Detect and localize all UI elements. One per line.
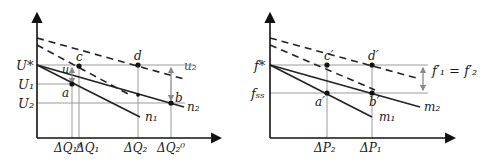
- label-u-star: U*: [16, 58, 34, 73]
- label-point-a: a: [62, 86, 69, 100]
- label-dq2-0: ΔQ₂⁰: [156, 141, 185, 155]
- label-point-d-prime: d′: [368, 49, 379, 63]
- label-f-star: f*: [253, 58, 266, 73]
- label-dp2: ΔP₂: [313, 141, 336, 155]
- label-u1: U₁: [18, 77, 34, 92]
- label-dq2: ΔQ₂: [123, 141, 148, 155]
- m1-line: [270, 65, 372, 117]
- label-point-b-prime: b′: [369, 95, 380, 109]
- label-m2: m₂: [424, 100, 440, 114]
- label-point-d: d: [134, 49, 142, 63]
- intersection-dq2-n2: [136, 93, 140, 97]
- upper-dashed-line: [37, 38, 184, 79]
- point-c: [76, 63, 81, 68]
- label-dp1: ΔP₁: [359, 141, 382, 155]
- label-point-a-prime: a′: [315, 95, 325, 109]
- label-f-ss: fₛₛ: [250, 86, 265, 101]
- point-b: [168, 100, 173, 105]
- label-u2-line: u₂: [184, 59, 197, 73]
- label-n1: n₁: [145, 110, 158, 124]
- label-u2: U₂: [18, 96, 34, 111]
- m2-line: [270, 65, 420, 107]
- point-a: [69, 81, 74, 86]
- n2-line: [37, 65, 184, 107]
- label-dq1: ΔQ₁: [75, 141, 99, 155]
- label-u: u: [62, 63, 69, 76]
- label-f-equality: f′₁ = f′₂: [431, 63, 477, 78]
- diagram-canvas: U* U₁ U₂ ΔQ₁⁰ ΔQ₁ ΔQ₂ ΔQ₂⁰ n₁ n₂ u₂ u a …: [0, 0, 493, 164]
- label-point-c-prime: c′: [324, 49, 334, 63]
- point-c-prime: [324, 62, 329, 67]
- n1-line: [37, 65, 140, 117]
- label-point-c: c: [76, 50, 83, 64]
- label-m1: m₁: [379, 110, 395, 124]
- point-a-prime: [324, 90, 329, 95]
- label-n2: n₂: [187, 100, 200, 114]
- point-d-prime: [369, 62, 374, 67]
- point-d: [135, 62, 140, 67]
- upper-dashed-line-right: [270, 38, 420, 79]
- left-chart: U* U₁ U₂ ΔQ₁⁰ ΔQ₁ ΔQ₂ ΔQ₂⁰ n₁ n₂ u₂ u a …: [16, 14, 220, 155]
- right-chart: f* fₛₛ ΔP₂ ΔP₁ m₁ m₂ f′₁ = f′₂ a′ b′ c′ …: [250, 14, 477, 155]
- label-point-b: b: [175, 91, 183, 105]
